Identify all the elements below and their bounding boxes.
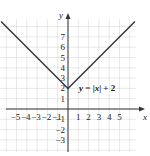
y-tick-label: −2: [55, 125, 65, 135]
y-tick-label: 7: [61, 32, 66, 42]
x-tick-label: −2: [42, 112, 52, 122]
x-axis-label: x: [142, 112, 147, 122]
x-tick-label: −3: [31, 112, 41, 122]
y-tick-label: 6: [61, 42, 66, 52]
y-tick-label: 4: [61, 63, 66, 73]
x-tick-label: −5: [11, 112, 21, 122]
y-tick-label: 1: [61, 94, 66, 104]
y-axis-label: y: [58, 10, 63, 20]
x-tick-label: 1: [76, 112, 81, 122]
x-axis-arrow-icon: [139, 107, 145, 112]
y-tick-label: −3: [55, 135, 65, 145]
x-tick-label: −4: [21, 112, 31, 122]
graph: xy−5−4−3−2−112345−3−2−11234567y = |x| + …: [0, 0, 150, 156]
y-tick-label: 5: [61, 53, 66, 63]
x-tick-label: 2: [86, 112, 91, 122]
equation-label: y = |x| + 2: [78, 83, 116, 93]
y-axis-arrow-icon: [66, 13, 71, 19]
x-tick-label: 3: [97, 112, 102, 122]
x-tick-label: 4: [107, 112, 112, 122]
x-tick-label: 5: [117, 112, 122, 122]
y-tick-label: −1: [55, 114, 65, 124]
